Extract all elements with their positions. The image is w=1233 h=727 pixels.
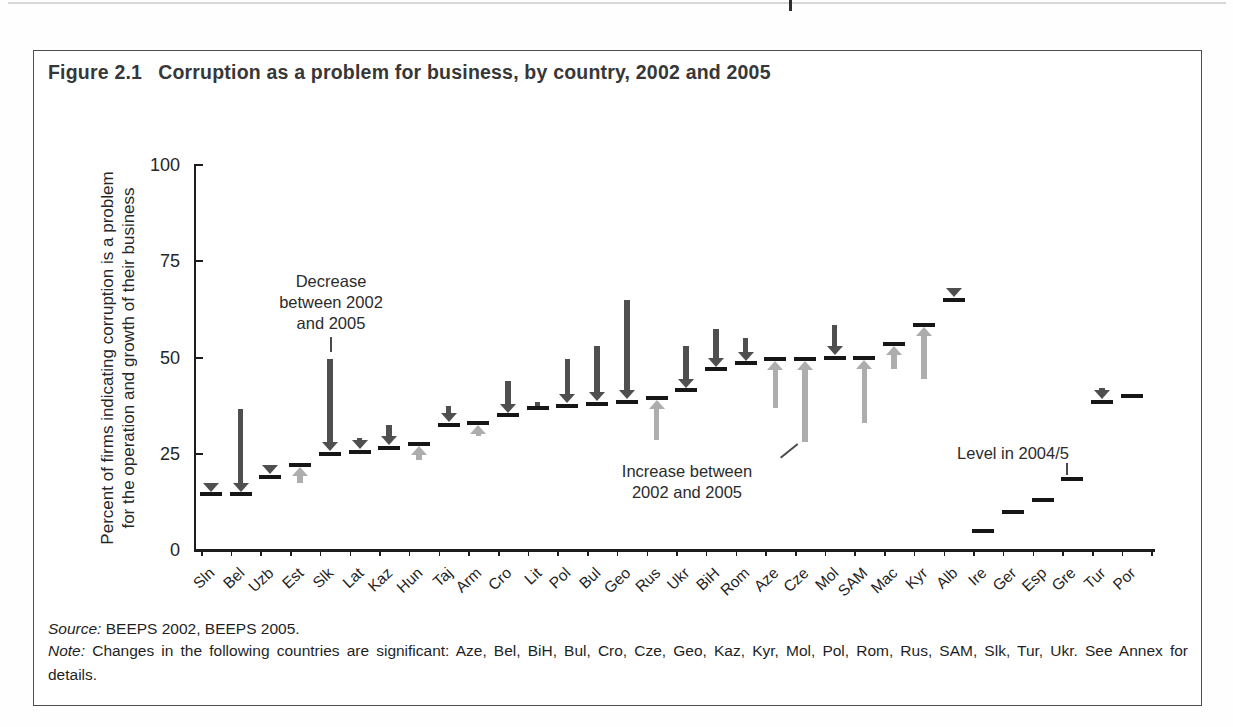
decrease-arrow-shaft: [594, 346, 600, 394]
country-dash: [913, 323, 935, 327]
x-tick: [706, 551, 708, 556]
decrease-arrow-shaft: [743, 338, 749, 354]
y-tick: [196, 453, 203, 455]
figure-title: Figure 2.1Corruption as a problem for bu…: [48, 61, 771, 84]
country-dash: [1002, 510, 1024, 514]
country-dash: [1061, 477, 1083, 481]
note-text: Changes in the following countries are s…: [92, 642, 1188, 659]
x-tick: [1003, 551, 1005, 556]
country-dash: [349, 450, 371, 454]
decrease-arrow-shaft: [951, 288, 957, 292]
figure-number: Figure 2.1: [48, 61, 142, 83]
y-tick-label: 75: [130, 251, 180, 271]
decrease-arrow-shaft: [327, 359, 333, 444]
x-tick: [617, 551, 619, 556]
country-dash: [735, 361, 757, 365]
increase-arrow-shaft: [654, 407, 660, 440]
decrease-arrow-shaft: [1099, 388, 1105, 392]
level-annotation-leader: [1066, 463, 1068, 475]
x-tick: [736, 551, 738, 556]
decrease-arrow-shaft: [238, 409, 244, 484]
decrease-annotation: Decrease between 2002 and 2005: [261, 271, 401, 334]
y-tick-label: 50: [130, 348, 180, 368]
decrease-arrow-shaft: [446, 406, 452, 416]
decrease-annotation-line1: Decrease: [261, 271, 401, 292]
country-dash: [200, 492, 222, 496]
scanned-page: Figure 2.1Corruption as a problem for bu…: [0, 0, 1233, 727]
figure-border-box: [33, 50, 1202, 706]
increase-annotation-line2: 2002 and 2005: [577, 482, 797, 503]
x-tick: [557, 551, 559, 556]
country-dash: [527, 406, 549, 410]
source-text: BEEPS 2002, BEEPS 2005.: [106, 620, 300, 637]
y-tick: [196, 260, 203, 262]
source-label: Source:: [48, 620, 101, 637]
country-dash: [764, 357, 786, 361]
country-dash: [824, 356, 846, 360]
country-dash: [616, 400, 638, 404]
country-dash: [408, 442, 430, 446]
country-dash: [646, 396, 668, 400]
increase-arrow-shaft: [416, 454, 422, 460]
y-tick-label: 100: [130, 155, 180, 175]
x-tick: [320, 551, 322, 556]
x-tick: [1122, 551, 1124, 556]
x-tick: [439, 551, 441, 556]
cut-off-letter-fragment: [789, 0, 792, 11]
x-tick: [379, 551, 381, 556]
country-dash: [289, 463, 311, 467]
x-tick: [350, 551, 352, 556]
country-dash: [794, 357, 816, 361]
country-dash: [438, 423, 460, 427]
decrease-arrow-shaft: [683, 346, 689, 381]
x-tick: [468, 551, 470, 556]
x-tick: [914, 551, 916, 556]
decrease-arrow-shaft: [268, 465, 274, 469]
note-line-2: details.: [48, 666, 97, 684]
x-tick: [944, 551, 946, 556]
y-tick-label: 0: [130, 540, 180, 560]
x-tick: [973, 551, 975, 556]
country-dash: [319, 452, 341, 456]
y-tick: [196, 164, 203, 166]
decrease-arrow-shaft: [505, 381, 511, 406]
country-dash: [259, 475, 281, 479]
decrease-annotation-leader: [330, 337, 332, 352]
decrease-annotation-line3: and 2005: [261, 313, 401, 334]
note-line-1: Note: Changes in the following countries…: [48, 642, 1188, 660]
country-dash: [1121, 394, 1143, 398]
x-tick: [676, 551, 678, 556]
source-line: Source: BEEPS 2002, BEEPS 2005.: [48, 620, 300, 638]
x-tick: [647, 551, 649, 556]
x-tick: [1092, 551, 1094, 556]
x-tick: [409, 551, 411, 556]
level-annotation: Level in 2004/5: [923, 443, 1103, 464]
increase-arrow-shaft: [773, 369, 779, 408]
decrease-arrow-shaft: [713, 329, 719, 360]
decrease-arrow-shaft: [208, 483, 214, 487]
y-tick: [196, 357, 203, 359]
x-tick: [884, 551, 886, 556]
decrease-annotation-line2: between 2002: [261, 292, 401, 313]
figure-title-text: Corruption as a problem for business, by…: [158, 61, 771, 83]
x-tick: [290, 551, 292, 556]
country-dash: [1032, 498, 1054, 502]
increase-arrow-shaft: [862, 367, 868, 423]
increase-arrow-shaft: [476, 432, 482, 436]
x-tick: [587, 551, 589, 556]
x-tick: [1033, 551, 1035, 556]
decrease-arrow-shaft: [386, 425, 392, 439]
increase-arrow-shaft: [921, 334, 927, 378]
x-axis-line: [194, 549, 1155, 552]
decrease-arrow-shaft: [624, 300, 630, 393]
country-dash: [586, 402, 608, 406]
x-tick: [231, 551, 233, 556]
increase-annotation: Increase between 2002 and 2005: [577, 461, 797, 503]
country-dash: [230, 492, 252, 496]
country-dash: [467, 421, 489, 425]
decrease-arrow-shaft: [357, 438, 363, 442]
x-tick: [765, 551, 767, 556]
decrease-arrow-shaft: [565, 359, 571, 396]
x-tick: [528, 551, 530, 556]
x-tick: [795, 551, 797, 556]
